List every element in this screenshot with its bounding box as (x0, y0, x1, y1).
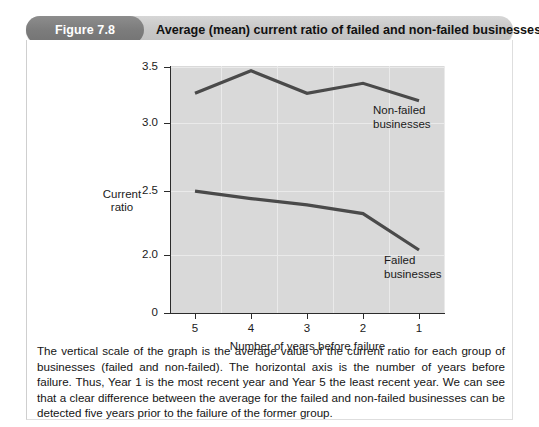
figure-caption: The vertical scale of the graph is the a… (37, 343, 505, 421)
series-lines (27, 40, 514, 340)
annotation-non-failed-line1: Non-failed (373, 104, 463, 118)
annotation-non-failed-line2: businesses (373, 118, 463, 132)
series-line-failed (195, 191, 419, 250)
figure-card: 3.5 3.0 2.5 2.0 0 5 4 3 2 1 Number of ye… (26, 40, 513, 420)
annotation-failed-line2: businesses (384, 268, 474, 282)
chart-plot: 3.5 3.0 2.5 2.0 0 5 4 3 2 1 Number of ye… (27, 40, 514, 340)
series-annotation-failed: Failed businesses (384, 254, 474, 281)
annotation-failed-line1: Failed (384, 254, 474, 268)
series-annotation-non-failed: Non-failed businesses (373, 104, 463, 131)
series-line-non-failed (195, 71, 419, 101)
